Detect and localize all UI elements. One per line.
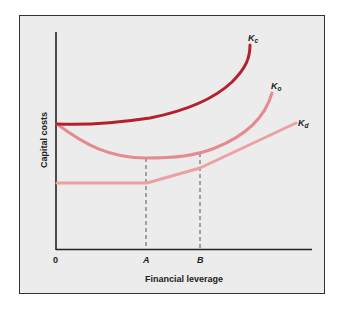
origin-label: 0 bbox=[53, 255, 58, 265]
tick-label-b: B bbox=[197, 255, 204, 265]
chart-svg: Kc Ko Kd 0 A B Financial leverage Capita… bbox=[0, 0, 345, 317]
ko-label: Ko bbox=[271, 81, 282, 92]
kc-label: Kc bbox=[248, 33, 259, 44]
x-axis-title: Financial leverage bbox=[145, 274, 223, 284]
tick-label-a: A bbox=[142, 255, 150, 265]
kc-curve bbox=[57, 45, 250, 124]
kd-curve bbox=[57, 123, 296, 183]
kd-label: Kd bbox=[298, 118, 310, 129]
y-axis-title: Capital costs bbox=[39, 112, 49, 168]
